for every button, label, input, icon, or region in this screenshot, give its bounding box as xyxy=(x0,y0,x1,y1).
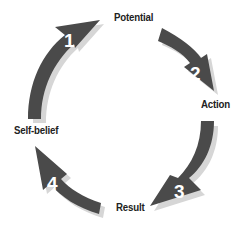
label-action: Action xyxy=(201,98,230,110)
step-number-3: 3 xyxy=(174,181,185,202)
cycle-arrows: 1 2 3 4 xyxy=(0,0,241,227)
step-number-4: 4 xyxy=(47,173,58,194)
arrow-4-icon: 4 xyxy=(35,146,105,218)
arrow-2-icon: 2 xyxy=(158,28,218,95)
step-number-2: 2 xyxy=(190,63,201,84)
label-self-belief: Self-belief xyxy=(14,124,58,136)
step-number-1: 1 xyxy=(64,30,75,51)
label-potential: Potential xyxy=(114,11,153,23)
arrow-3-icon: 3 xyxy=(150,121,218,211)
label-result: Result xyxy=(116,201,145,213)
arrow-1-icon: 1 xyxy=(28,20,104,123)
cycle-diagram: 1 2 3 4 Potential Action Result Self-bel… xyxy=(0,0,241,227)
